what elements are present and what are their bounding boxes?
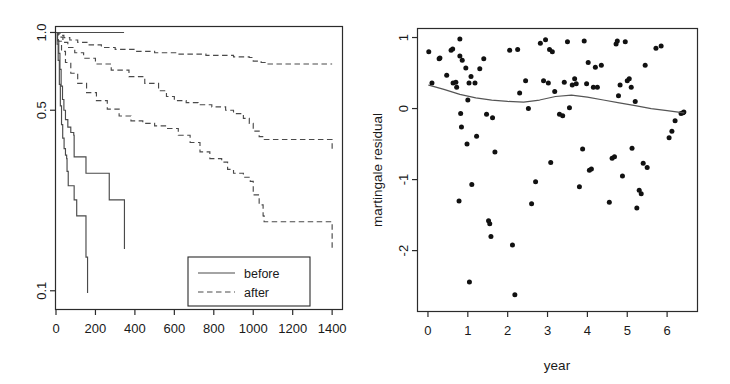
residual-data-point — [552, 89, 557, 94]
residual-y-axis-title: martingale residual — [370, 113, 385, 227]
residual-data-point — [510, 242, 515, 247]
residual-data-point — [526, 106, 531, 111]
residual-data-point — [481, 56, 486, 61]
residual-data-point — [629, 85, 634, 90]
residual-point-group — [426, 36, 686, 297]
residual-data-point — [546, 80, 551, 85]
residual-data-point — [472, 80, 477, 85]
residual-x-tick-label: 2 — [504, 323, 511, 338]
residual-data-point — [645, 165, 650, 170]
legend-label-before[interactable]: before — [244, 267, 279, 281]
residual-data-point — [457, 53, 462, 58]
residual-data-point — [574, 81, 579, 86]
survival-curve-after-q3 — [56, 32, 332, 249]
survival-x-tick-label: 1400 — [318, 321, 347, 336]
residual-data-point — [577, 184, 582, 189]
residual-data-point — [582, 39, 587, 44]
residual-y-tick-label: -2 — [397, 245, 412, 257]
residual-data-point — [517, 90, 522, 95]
residual-data-point — [653, 46, 658, 51]
survival-legend[interactable]: beforeafter — [188, 257, 310, 306]
residual-data-point — [459, 125, 464, 130]
residual-data-point — [586, 60, 591, 65]
survival-x-tick-label: 800 — [203, 321, 225, 336]
residual-x-tick-label: 1 — [464, 323, 471, 338]
residual-scatter-svg: 012345610-1-2 year martingale residual — [365, 0, 730, 384]
residual-data-point — [465, 98, 470, 103]
residual-data-point — [627, 76, 632, 81]
residual-data-point — [512, 292, 517, 297]
survival-curves-panel: 02004006008001000120014001.00.50.1 befor… — [0, 0, 365, 384]
residual-data-point — [450, 46, 455, 51]
residual-data-point — [584, 81, 589, 86]
residual-y-tick-label: -1 — [397, 174, 412, 186]
survival-x-tick-label: 0 — [52, 321, 59, 336]
residual-data-point — [429, 80, 434, 85]
residual-data-point — [560, 113, 565, 118]
residual-data-point — [467, 80, 472, 85]
residual-data-point — [620, 174, 625, 179]
survival-x-tick-label: 600 — [163, 321, 185, 336]
residual-x-tick-label: 3 — [544, 323, 551, 338]
residual-data-point — [669, 129, 674, 134]
residual-data-point — [550, 49, 555, 54]
residual-data-point — [488, 234, 493, 239]
residual-data-point — [490, 115, 495, 120]
residual-scatter-panel: 012345610-1-2 year martingale residual — [365, 0, 730, 384]
residual-data-point — [523, 78, 528, 83]
residual-data-point — [580, 147, 585, 152]
residual-data-point — [643, 63, 648, 68]
residual-data-point — [469, 182, 474, 187]
survival-y-tick-label: 1.0 — [35, 23, 50, 41]
residual-data-point — [548, 160, 553, 165]
figure-container: 02004006008001000120014001.00.50.1 befor… — [0, 0, 730, 384]
survival-x-tick-label: 400 — [124, 321, 146, 336]
legend-label-after[interactable]: after — [244, 286, 269, 300]
residual-data-point — [457, 198, 462, 203]
residual-plot-frame — [418, 29, 698, 312]
residual-data-point — [467, 279, 472, 284]
residual-x-tick-label: 5 — [624, 323, 631, 338]
residual-data-point — [487, 221, 492, 226]
residual-data-point — [633, 99, 638, 104]
residual-x-tick-label: 0 — [424, 323, 431, 338]
residual-data-point — [612, 154, 617, 159]
survival-x-tick-label: 1200 — [278, 321, 307, 336]
residual-data-point — [533, 179, 538, 184]
residual-data-point — [484, 112, 489, 117]
residual-data-point — [641, 161, 646, 166]
residual-data-point — [565, 39, 570, 44]
residual-data-point — [469, 74, 474, 79]
residual-data-point — [673, 118, 678, 123]
residual-x-tick-label: 4 — [584, 323, 591, 338]
residual-y-tick-label: 1 — [397, 34, 412, 41]
residual-data-point — [567, 105, 572, 110]
residual-data-point — [618, 83, 623, 88]
residual-data-point — [615, 39, 620, 44]
residual-data-point — [477, 66, 482, 71]
residual-data-point — [463, 66, 468, 71]
residual-data-point — [607, 200, 612, 205]
residual-data-point — [543, 37, 548, 42]
residual-data-point — [444, 73, 449, 78]
residual-data-point — [529, 201, 534, 206]
residual-data-point — [623, 39, 628, 44]
residual-data-point — [538, 41, 543, 46]
residual-data-point — [630, 146, 635, 151]
residual-data-point — [458, 111, 463, 116]
residual-data-point — [426, 49, 431, 54]
residual-data-point — [616, 93, 621, 98]
residual-data-point — [639, 191, 644, 196]
residual-data-point — [572, 76, 577, 81]
survival-x-tick-label: 1000 — [239, 321, 268, 336]
survival-curve-group — [56, 32, 332, 293]
residual-data-point — [492, 149, 497, 154]
survival-x-tick-label: 200 — [85, 321, 107, 336]
residual-data-point — [515, 47, 520, 52]
residual-data-point — [465, 142, 470, 147]
survival-curve-after-q1 — [56, 32, 332, 64]
residual-data-point — [589, 166, 594, 171]
residual-data-point — [541, 78, 546, 83]
residual-y-tick-label: 0 — [397, 105, 412, 112]
residual-data-point — [593, 65, 598, 70]
